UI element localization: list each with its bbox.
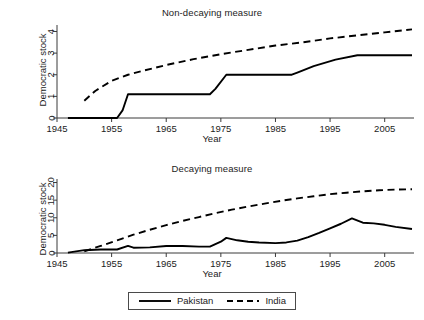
plot-area-non-decaying: 012341945195519651975198519952005 — [0, 0, 424, 158]
chart-panel-decaying: Decaying measure Democratic stock Year 0… — [0, 157, 424, 287]
x-tick-label: 1955 — [101, 258, 122, 269]
series-line-pakistan — [68, 55, 412, 118]
plot-area-decaying: 051015201945195519651975198519952005 — [0, 157, 424, 287]
x-tick-label: 1985 — [265, 258, 286, 269]
y-tick-label: 1 — [46, 94, 57, 99]
y-tick-label: 0 — [46, 250, 57, 255]
legend-entry-india: India — [226, 295, 286, 306]
series-line-india — [84, 29, 412, 100]
y-tick-label: 15 — [46, 195, 57, 206]
x-tick-label: 1955 — [101, 123, 122, 134]
y-tick-label: 2 — [46, 72, 57, 77]
legend-box: Pakistan India — [128, 292, 296, 310]
dashed-line-icon — [226, 296, 260, 306]
x-tick-label: 1965 — [156, 258, 177, 269]
x-tick-label: 1945 — [46, 123, 67, 134]
x-tick-label: 1945 — [46, 258, 67, 269]
y-tick-label: 4 — [46, 29, 57, 34]
x-tick-label: 1975 — [210, 123, 231, 134]
legend-entry-pakistan: Pakistan — [138, 295, 213, 306]
x-tick-label: 1995 — [320, 123, 341, 134]
y-tick-label: 3 — [46, 50, 57, 55]
y-tick-label: 20 — [46, 177, 57, 188]
y-tick-label: 0 — [46, 115, 57, 120]
x-tick-label: 2005 — [374, 123, 395, 134]
x-tick-label: 1985 — [265, 123, 286, 134]
y-tick-label: 5 — [46, 233, 57, 238]
legend: Pakistan India — [0, 292, 424, 310]
y-tick-label: 10 — [46, 212, 57, 223]
x-tick-label: 2005 — [374, 258, 395, 269]
legend-label-pakistan: Pakistan — [177, 295, 213, 306]
chart-panel-non-decaying: Non-decaying measure Democratic stock Ye… — [0, 0, 424, 158]
figure-container: Non-decaying measure Democratic stock Ye… — [0, 0, 424, 320]
legend-label-india: India — [265, 295, 286, 306]
solid-line-icon — [138, 296, 172, 306]
x-tick-label: 1995 — [320, 258, 341, 269]
x-tick-label: 1965 — [156, 123, 177, 134]
x-tick-label: 1975 — [210, 258, 231, 269]
series-line-pakistan — [68, 218, 412, 252]
